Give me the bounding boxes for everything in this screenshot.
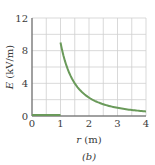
y-tick-label: 12 (15, 13, 28, 24)
x-tick-label: 0 (29, 118, 35, 129)
y-tick-label: 8 (22, 45, 28, 56)
x-axis-label: r (m) (76, 134, 101, 145)
x-tick-label: 4 (143, 118, 149, 129)
x-tick-label: 2 (86, 118, 92, 129)
y-tick-label: 0 (22, 111, 28, 122)
y-tick-label: 4 (22, 78, 28, 89)
y-axis-label: E (kV/m) (4, 45, 15, 91)
grid-lines (32, 18, 146, 116)
chart: 04812 01234 E (kV/m) r (m) (b) (0, 0, 155, 165)
x-tick-label: 1 (57, 118, 63, 129)
panel-label: (b) (82, 151, 96, 162)
y-tick-labels: 04812 (15, 13, 28, 122)
x-tick-labels: 01234 (29, 118, 149, 129)
x-tick-label: 3 (114, 118, 120, 129)
